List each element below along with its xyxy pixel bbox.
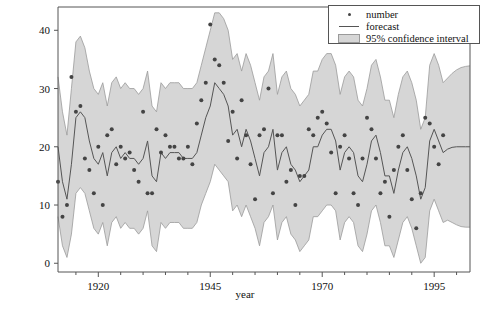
data-point xyxy=(137,180,141,184)
data-point xyxy=(217,63,221,67)
legend-label-number: number xyxy=(363,9,398,20)
data-point xyxy=(410,197,414,201)
data-point xyxy=(347,156,351,160)
data-point xyxy=(356,203,360,207)
data-point xyxy=(146,191,150,195)
data-point xyxy=(231,110,235,114)
data-point xyxy=(208,22,212,26)
data-point xyxy=(401,133,405,137)
data-point xyxy=(190,162,194,166)
data-point xyxy=(69,75,73,79)
data-point xyxy=(159,151,163,155)
data-point xyxy=(374,156,378,160)
data-point xyxy=(383,180,387,184)
data-point xyxy=(87,168,91,172)
data-point xyxy=(396,145,400,149)
data-point xyxy=(132,168,136,172)
chart-container: 0102030401920194519701995 year number fo… xyxy=(0,0,490,312)
data-point xyxy=(316,116,320,120)
band-marker-icon xyxy=(335,34,363,43)
data-point xyxy=(311,133,315,137)
data-point xyxy=(150,191,154,195)
data-point xyxy=(405,168,409,172)
data-point xyxy=(289,168,293,172)
data-point xyxy=(284,180,288,184)
data-point xyxy=(119,145,123,149)
data-point xyxy=(60,215,64,219)
data-point xyxy=(293,203,297,207)
data-point xyxy=(244,133,248,137)
legend-label-forecast: forecast xyxy=(363,21,399,32)
data-point xyxy=(334,191,338,195)
data-point xyxy=(213,57,217,61)
data-point xyxy=(199,98,203,102)
data-point xyxy=(177,156,181,160)
data-point xyxy=(123,156,127,160)
data-point xyxy=(271,191,275,195)
data-point xyxy=(441,133,445,137)
legend-item-forecast: forecast xyxy=(335,21,474,32)
point-marker-icon xyxy=(335,13,363,16)
data-point xyxy=(387,215,391,219)
data-point xyxy=(298,174,302,178)
chart-legend: number forecast 95% confidence interval xyxy=(328,5,480,44)
data-point xyxy=(392,168,396,172)
legend-item-number: number xyxy=(335,9,474,20)
data-point xyxy=(96,145,100,149)
tick-label: 20 xyxy=(39,141,51,153)
data-point xyxy=(352,191,356,195)
data-point xyxy=(83,156,87,160)
data-point xyxy=(419,191,423,195)
data-point xyxy=(110,127,114,131)
data-point xyxy=(253,197,257,201)
data-point xyxy=(74,110,78,114)
x-axis-label: year xyxy=(0,288,490,300)
data-point xyxy=(302,174,306,178)
legend-item-confidence: 95% confidence interval xyxy=(335,33,474,44)
data-point xyxy=(258,133,262,137)
data-point xyxy=(307,127,311,131)
data-point xyxy=(361,156,365,160)
data-point xyxy=(414,226,418,230)
data-point xyxy=(65,203,69,207)
data-point xyxy=(275,133,279,137)
data-point xyxy=(204,81,208,85)
data-point xyxy=(235,156,239,160)
data-point xyxy=(338,145,342,149)
data-point xyxy=(226,139,230,143)
data-point xyxy=(249,162,253,166)
tick-label: 0 xyxy=(45,257,51,269)
data-point xyxy=(262,127,266,131)
data-point xyxy=(369,127,373,131)
data-point xyxy=(280,133,284,137)
data-point xyxy=(141,110,145,114)
data-point xyxy=(378,191,382,195)
line-marker-icon xyxy=(335,26,363,27)
data-point xyxy=(320,110,324,114)
data-point xyxy=(329,151,333,155)
tick-label: 40 xyxy=(39,24,51,36)
tick-label: 30 xyxy=(39,83,51,95)
data-point xyxy=(105,133,109,137)
timeseries-forecast-chart: 0102030401920194519701995 xyxy=(0,0,490,312)
data-point xyxy=(114,162,118,166)
data-point xyxy=(195,121,199,125)
data-point xyxy=(155,127,159,131)
data-point xyxy=(365,116,369,120)
data-point xyxy=(101,203,105,207)
data-point xyxy=(343,133,347,137)
legend-label-confidence: 95% confidence interval xyxy=(363,33,469,44)
data-point xyxy=(78,104,82,108)
data-point xyxy=(432,145,436,149)
confidence-band xyxy=(58,13,470,263)
data-point xyxy=(172,145,176,149)
data-point xyxy=(266,87,270,91)
data-point xyxy=(168,145,172,149)
data-point xyxy=(428,121,432,125)
data-point xyxy=(163,133,167,137)
data-point xyxy=(325,121,329,125)
data-point xyxy=(240,98,244,102)
data-point xyxy=(181,156,185,160)
data-point xyxy=(437,162,441,166)
data-point xyxy=(128,151,132,155)
